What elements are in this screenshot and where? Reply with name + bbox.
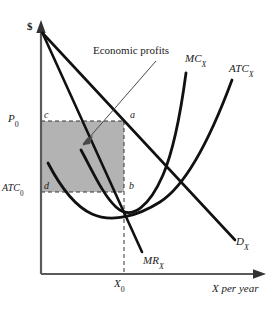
quantity-axis-label-text: X [114, 277, 121, 289]
marginal-cost-curve-label: MCX [185, 53, 206, 67]
demand-curve-label: DX [236, 236, 249, 250]
point-label-d: d [44, 181, 49, 191]
atc-axis-label-sub: 0 [20, 190, 24, 198]
economics-diagram-figure: $ P0 ATC0 c a d b X0 X per year MCX ATCX… [0, 0, 280, 312]
average-total-cost-curve-label: ATCX [229, 63, 254, 77]
quantity-axis-label-sub: 0 [121, 285, 125, 294]
y-axis-arrowhead [36, 20, 45, 33]
marginal-cost-curve-label-text: MC [185, 52, 202, 64]
economic-profit-rectangle [41, 121, 124, 192]
price-axis-label-sub: 0 [15, 120, 19, 129]
x-axis-label: X per year [212, 283, 258, 294]
point-label-a: a [130, 110, 135, 120]
average-total-cost-curve-label-text: ATC [229, 62, 249, 74]
price-axis-label-text: P [8, 112, 15, 124]
marginal-revenue-curve-label-sub: X [159, 262, 164, 271]
x-axis-arrowhead [253, 269, 266, 278]
atc-axis-label: ATC0 [2, 183, 24, 196]
marginal-revenue-curve-label-text: MR [143, 254, 159, 266]
demand-curve-label-sub: X [244, 243, 249, 252]
point-label-b: b [129, 181, 134, 191]
quantity-axis-label: X0 [114, 278, 125, 292]
marginal-cost-curve-label-sub: X [202, 60, 207, 69]
point-label-c: c [44, 110, 48, 120]
y-axis-label: $ [27, 21, 33, 32]
demand-curve-label-text: D [236, 235, 244, 247]
atc-axis-label-text: ATC [2, 182, 20, 193]
marginal-revenue-curve-label: MRX [143, 255, 164, 269]
price-axis-label: P0 [8, 113, 19, 127]
average-total-cost-curve-label-sub: X [249, 70, 254, 79]
economic-profits-annotation: Economic profits [93, 45, 169, 56]
